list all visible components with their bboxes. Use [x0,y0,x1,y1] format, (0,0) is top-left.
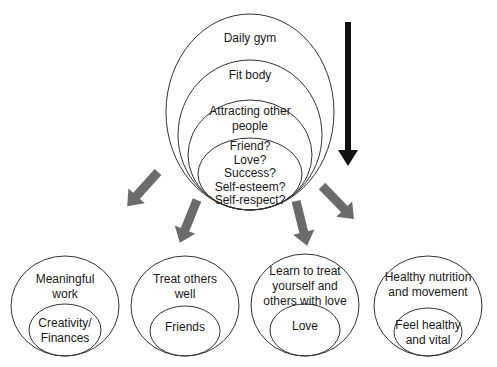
branch-arrow-icon [314,178,362,226]
label-meaningful-work: Meaningful work [36,272,95,302]
branch-arrow-icon [170,196,208,247]
label-love: Love [292,319,318,334]
branch-arrow-icon [119,165,166,214]
label-attracting: Attracting other people [209,104,290,134]
label-friends: Friends [165,320,205,335]
label-healthy-nutrition: Healthy nutrition and movement [385,270,472,300]
label-feel-healthy: Feel healthy and vital [395,318,460,348]
down-arrow-icon [338,22,358,166]
label-learn-love: Learn to treat yourself and others with … [263,264,346,309]
label-daily-gym: Daily gym [224,31,277,46]
branch-arrow-icon [285,198,317,248]
label-treat-others: Treat others well [153,272,217,302]
label-questions: Friend? Love? Success? Self-esteem? Self… [215,140,286,208]
label-creativity: Creativity/ Finances [38,316,91,346]
label-fit-body: Fit body [229,68,272,83]
